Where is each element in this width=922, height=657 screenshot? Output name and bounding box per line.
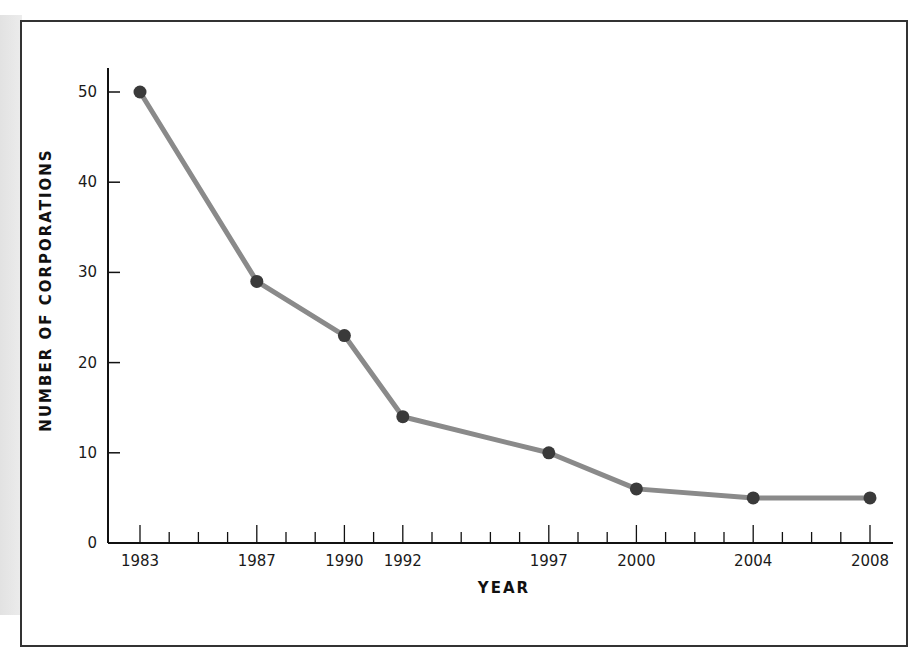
y-tick-label: 0 [87, 534, 97, 552]
data-point-marker [396, 410, 409, 423]
data-series [134, 86, 877, 505]
x-tick-label: 1992 [384, 552, 422, 570]
series-line [140, 92, 870, 498]
x-tick-label: 2008 [851, 552, 889, 570]
line-chart: 01020304050 1983198719901992199720002004… [0, 0, 922, 657]
y-tick-label: 30 [78, 263, 97, 281]
data-point-marker [338, 329, 351, 342]
y-tick-label: 40 [78, 173, 97, 191]
data-point-marker [630, 482, 643, 495]
x-tick-label: 1983 [121, 552, 159, 570]
x-tick-label: 1990 [325, 552, 363, 570]
x-tick-label: 2000 [617, 552, 655, 570]
data-point-marker [250, 275, 263, 288]
x-axis-title: YEAR [477, 579, 530, 597]
x-tick-label: 1997 [530, 552, 568, 570]
x-axis: 19831987199019921997200020042008 [108, 525, 893, 570]
y-tick-label: 10 [78, 444, 97, 462]
x-tick-label: 2004 [734, 552, 772, 570]
data-point-marker [134, 86, 147, 99]
x-tick-label: 1987 [238, 552, 276, 570]
y-tick-label: 50 [78, 83, 97, 101]
data-point-marker [747, 491, 760, 504]
y-axis: 01020304050 [78, 68, 120, 552]
data-point-marker [864, 491, 877, 504]
y-axis-title: NUMBER OF CORPORATIONS [37, 148, 55, 431]
data-point-marker [542, 446, 555, 459]
y-tick-label: 20 [78, 354, 97, 372]
